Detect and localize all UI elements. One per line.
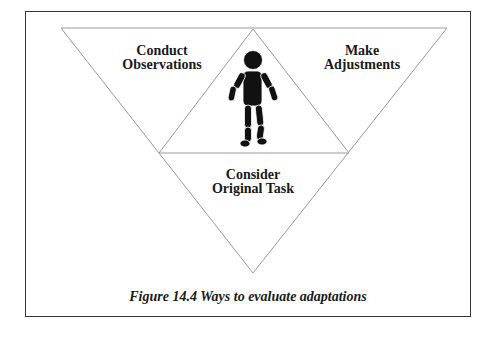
label-line: Conduct	[122, 44, 201, 58]
label-line: Make	[324, 44, 400, 58]
label-line: Adjustments	[324, 58, 400, 72]
label-line: Original Task	[212, 182, 294, 196]
person-figure-icon	[228, 51, 279, 148]
label-consider-original-task: Consider Original Task	[212, 168, 294, 195]
figure-caption: Figure 14.4 Ways to evaluate adaptations	[129, 289, 367, 305]
label-line: Consider	[212, 168, 294, 182]
label-conduct-observations: Conduct Observations	[122, 44, 201, 71]
label-line: Observations	[122, 58, 201, 72]
label-make-adjustments: Make Adjustments	[324, 44, 400, 71]
